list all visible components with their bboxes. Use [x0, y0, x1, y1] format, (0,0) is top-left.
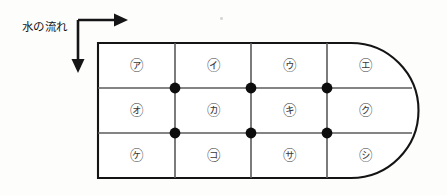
cell-label-ko: ㋙	[198, 145, 228, 167]
down-arrow-head	[72, 59, 85, 73]
junction-dot-3	[322, 83, 333, 94]
cell-label-u: ㋒	[274, 55, 304, 77]
cell-label-e: ㋓	[350, 55, 380, 77]
cell-label-sa: ㋚	[274, 145, 304, 167]
junction-dot-6	[322, 128, 333, 139]
scan-speck	[220, 17, 223, 20]
junction-dot-4	[170, 128, 181, 139]
flow-direction-label: 水の流れ	[22, 22, 67, 34]
cell-label-a: ㋐	[121, 55, 151, 77]
cell-label-o: ㋔	[121, 100, 151, 122]
junction-dot-2	[246, 83, 257, 94]
cell-label-ki: ㋖	[274, 100, 304, 122]
cell-label-ke: ㋘	[121, 145, 151, 167]
right-arrow-head	[114, 14, 128, 27]
junction-dot-5	[246, 128, 257, 139]
cell-label-shi: ㋛	[350, 145, 380, 167]
figure-root: 水の流れ ㋐ ㋑ ㋒ ㋓ ㋔ ㋕ ㋖ ㋗ ㋘ ㋙ ㋚ ㋛	[0, 0, 447, 195]
cell-label-i: ㋑	[198, 55, 228, 77]
junction-dot-1	[170, 83, 181, 94]
cell-label-ku: ㋗	[350, 100, 380, 122]
cell-label-ka: ㋕	[198, 100, 228, 122]
